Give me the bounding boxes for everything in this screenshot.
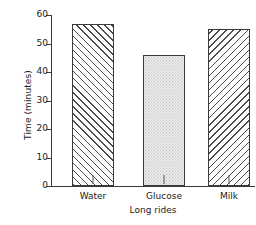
y-tick-label: 50: [22, 38, 48, 48]
bar-center-mark: [164, 175, 165, 184]
bar-milk: [208, 29, 250, 186]
plot-area: 0 10 20 30 40 50 60: [51, 15, 255, 186]
x-axis-line: [51, 186, 255, 187]
y-tick-label: 20: [22, 123, 48, 133]
bar-center-mark: [93, 175, 94, 184]
y-tick-label: 30: [22, 95, 48, 105]
bar-center-mark: [229, 175, 230, 184]
bar-chart-figure: Time (minutes) 0 10 20 30 40 50: [0, 0, 256, 225]
x-tick-label-milk: Milk: [220, 191, 238, 201]
y-tick-label: 60: [22, 9, 48, 19]
y-tick-label: 40: [22, 66, 48, 76]
y-tick-label: 0: [22, 180, 48, 190]
x-axis-title: Long rides: [51, 205, 255, 215]
x-tick-label-water: Water: [80, 191, 107, 201]
bar-glucose: [143, 55, 185, 186]
x-tick-label-glucose: Glucose: [146, 191, 182, 201]
y-tick-label: 10: [22, 152, 48, 162]
bar-water: [72, 24, 114, 187]
